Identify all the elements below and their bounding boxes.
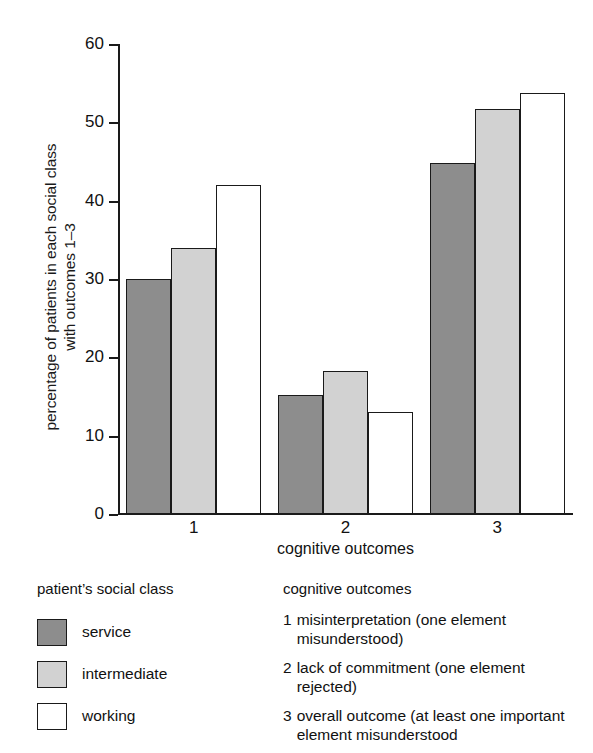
x-tick-label-3: 3 — [430, 518, 565, 538]
bar-intermediate-outcome-2 — [323, 371, 368, 514]
y-tick-label: 20 — [85, 347, 104, 367]
bar-working-outcome-3 — [520, 93, 565, 514]
x-tick-label-2: 2 — [278, 518, 413, 538]
outcome-item-3: 3overall outcome (at least one important… — [283, 707, 588, 744]
y-axis-title: percentage of patients in each social cl… — [41, 67, 79, 507]
y-tick-label: 50 — [85, 112, 104, 132]
bar-group-1 — [126, 44, 261, 514]
outcome-item-2: 2lack of commitment (one element rejecte… — [283, 659, 588, 696]
y-tick-mark — [109, 201, 118, 203]
bar-intermediate-outcome-1 — [171, 248, 216, 514]
y-tick-mark — [109, 279, 118, 281]
y-tick-mark — [109, 357, 118, 359]
x-axis-title: cognitive outcomes — [118, 540, 573, 558]
y-tick-mark — [109, 44, 118, 46]
bar-working-outcome-2 — [368, 412, 413, 514]
outcome-number: 2 — [283, 659, 292, 696]
outcome-number: 1 — [283, 611, 292, 648]
y-tick-mark — [109, 436, 118, 438]
outcome-description: lack of commitment (one element rejected… — [297, 659, 588, 696]
outcome-item-1: 1misinterpretation (one element misunder… — [283, 611, 588, 648]
legend-social-class-items: serviceintermediateworking — [37, 611, 267, 737]
y-tick-label: 0 — [95, 504, 104, 524]
legend-outcomes-items: 1misinterpretation (one element misunder… — [283, 611, 588, 744]
bar-intermediate-outcome-3 — [475, 109, 520, 514]
legend-label-intermediate: intermediate — [82, 665, 167, 683]
y-tick-mark — [109, 122, 118, 124]
bar-service-outcome-1 — [126, 279, 171, 514]
legend-swatch-intermediate — [37, 661, 67, 688]
legend-swatch-service — [37, 619, 67, 646]
bar-working-outcome-1 — [216, 185, 261, 514]
y-tick-label: 40 — [85, 191, 104, 211]
bar-service-outcome-2 — [278, 395, 323, 514]
x-tick-label-1: 1 — [126, 518, 261, 538]
legend-item-working: working — [37, 695, 267, 737]
y-tick-label: 30 — [85, 269, 104, 289]
legend-cognitive-outcomes: cognitive outcomes 1misinterpretation (o… — [283, 580, 588, 753]
outcome-description: overall outcome (at least one important … — [297, 707, 588, 744]
bar-chart-figure: percentage of patients in each social cl… — [0, 0, 593, 753]
outcome-description: misinterpretation (one element misunders… — [297, 611, 588, 648]
legend-label-service: service — [82, 623, 131, 641]
bar-series-container — [118, 44, 573, 514]
y-tick-mark — [109, 514, 118, 516]
plot-area: 0102030405060 123 — [118, 44, 573, 514]
legend-item-intermediate: intermediate — [37, 653, 267, 695]
legend-social-class: patient’s social class serviceintermedia… — [37, 580, 267, 737]
bar-service-outcome-3 — [430, 163, 475, 514]
legend-outcomes-title: cognitive outcomes — [283, 580, 588, 597]
legend-swatch-working — [37, 703, 67, 730]
y-tick-label: 60 — [85, 34, 104, 54]
bar-group-2 — [278, 44, 413, 514]
y-tick-label: 10 — [85, 426, 104, 446]
legend-item-service: service — [37, 611, 267, 653]
legend-label-working: working — [82, 707, 135, 725]
bar-group-3 — [430, 44, 565, 514]
legend-social-class-title: patient’s social class — [37, 580, 267, 597]
outcome-number: 3 — [283, 707, 292, 744]
